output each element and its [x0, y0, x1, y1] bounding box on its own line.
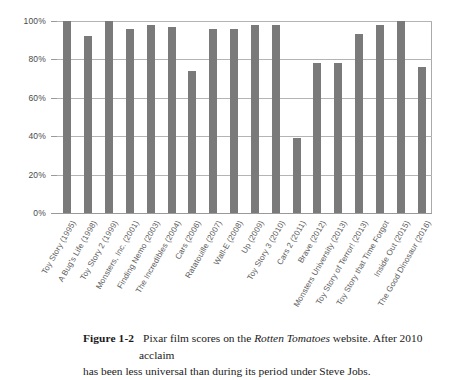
bar	[397, 21, 405, 213]
bar	[209, 29, 217, 213]
bar	[230, 29, 238, 213]
bar	[126, 29, 134, 213]
caption-line-2: has been less universal than during its …	[83, 365, 371, 377]
x-axis-labels: Toy Story (1995)A Bug's Life (1998)Toy S…	[0, 213, 453, 316]
bar	[293, 138, 301, 213]
bar	[63, 21, 71, 213]
y-axis-tick-label: 40%	[28, 131, 46, 141]
y-axis-tick-label: 20%	[28, 170, 46, 180]
bar	[84, 36, 92, 213]
bar	[418, 67, 426, 213]
bar	[272, 25, 280, 213]
y-axis-tick-label: 80%	[28, 54, 46, 64]
bar	[147, 25, 155, 213]
caption-italic-title: Rotten Tomatoes	[254, 332, 330, 344]
bar	[313, 63, 321, 213]
y-axis-tick-label: 100%	[23, 16, 46, 26]
bar	[188, 71, 196, 213]
caption-text-part1: Pixar film scores on the	[143, 332, 254, 344]
chart-figure: 0%20%40%60%80%100% Toy Story (1995)A Bug…	[0, 0, 453, 316]
y-axis-tick-label: 60%	[28, 93, 46, 103]
bar	[334, 63, 342, 213]
bar	[251, 25, 259, 213]
bar-series	[57, 21, 432, 213]
figure-caption: Figure 1-2Pixar film scores on the Rotte…	[27, 330, 431, 380]
bar	[168, 27, 176, 213]
bar	[355, 34, 363, 213]
y-axis-labels: 0%20%40%60%80%100%	[0, 21, 46, 213]
bar	[105, 21, 113, 213]
figure-number: Figure 1-2	[83, 332, 134, 344]
bar	[376, 25, 384, 213]
